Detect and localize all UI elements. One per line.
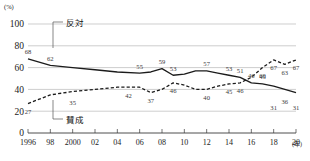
x-axis-tick-label: 18 [270,138,278,147]
data-label-oppose: 46 [248,72,255,79]
data-label-agree: 40 [203,94,210,101]
x-axis-tick-label: 14 [225,138,233,147]
x-axis-tick-label: 02 [91,138,99,147]
x-axis-tick-label: 16 [247,138,255,147]
x-axis-tick-label: 1996 [20,138,36,147]
data-label-oppose: 51 [237,67,244,74]
data-label-agree: 35 [69,99,76,106]
data-label-agree: 45 [226,88,233,95]
data-label-agree: 42 [125,92,132,99]
data-label-oppose-tail: 31 [293,104,300,111]
x-axis-tick-label: 06 [136,138,144,147]
data-label-oppose: 53 [226,65,233,72]
series-label-oppose: 反対 [66,18,84,28]
x-axis-labels: 199698200002040608101214161820 [20,138,300,147]
x-axis-tick-label: 98 [46,138,54,147]
y-axis-tick-label: 0 [19,128,24,138]
data-label-oppose: 55 [136,63,143,70]
data-label-oppose: 59 [159,58,166,65]
x-axis-unit: (年) [292,140,302,148]
data-label-oppose-tail: 36 [282,98,289,105]
data-label-agree: 27 [25,108,32,115]
y-axis-unit: (%) [4,3,14,11]
line-chart: 020406080100 (%) 19969820000204060810121… [0,0,310,161]
data-label-oppose-tail: 31 [270,104,277,111]
data-label-agree: 46 [170,87,177,94]
chart-container: 020406080100 (%) 19969820000204060810121… [0,0,310,161]
x-axis-tick-label: 2000 [65,138,81,147]
data-label-agree: 46 [237,87,244,94]
data-label-oppose: 62 [47,55,54,62]
data-label-agree: 67 [293,64,300,71]
leader-line-agree [53,100,63,119]
x-axis-ticks [28,129,296,133]
data-label-oppose: 57 [203,60,210,67]
y-axis-tick-label: 20 [15,107,25,117]
y-axis-tick-label: 40 [15,85,25,95]
x-axis-tick-label: 04 [113,138,121,147]
y-axis-labels: 020406080100 [10,19,25,138]
x-axis-tick-label: 12 [203,138,211,147]
x-axis-tick-label: 10 [180,138,188,147]
y-axis-tick-label: 80 [15,41,25,51]
data-label-agree: 37 [148,97,155,104]
series-annotation-oppose: 反対 [53,18,84,48]
data-label-oppose: 68 [25,48,32,55]
series-label-agree: 賛成 [66,115,84,125]
x-axis-tick-label: 08 [158,138,166,147]
data-label-agree: 63 [282,69,289,76]
data-label-oppose: 53 [170,65,177,72]
data-label-agree: 67 [270,64,277,71]
data-label-agree: 60 [259,72,266,79]
leader-line-oppose [53,22,63,28]
y-axis-tick-label: 100 [10,19,25,29]
data-labels-oppose-tail: 313631 [270,98,299,110]
y-axis-tick-label: 60 [15,63,25,73]
